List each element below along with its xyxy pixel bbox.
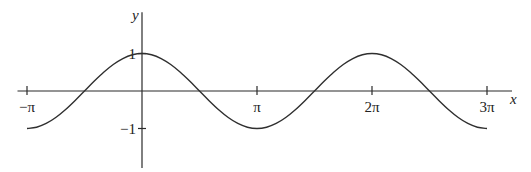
y-axis-label: y [130, 7, 139, 23]
cosine-chart: x y −ππ2π3π1−1 [0, 0, 531, 172]
x-tick-label: π [253, 99, 261, 115]
x-tick-label: −π [19, 99, 35, 115]
x-axis-label: x [509, 91, 517, 107]
x-tick-label: 3π [479, 99, 495, 115]
x-tick-label: 2π [364, 99, 380, 115]
y-tick-label: −1 [120, 121, 136, 137]
